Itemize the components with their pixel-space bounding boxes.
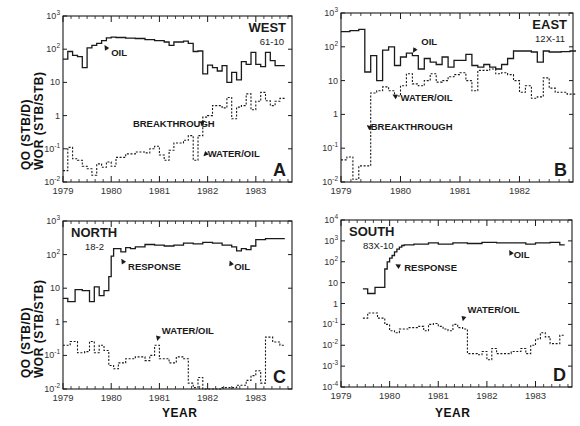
y-tick-label: 102 xyxy=(324,255,338,267)
annotation-label: OIL xyxy=(421,36,437,47)
x-tick-label: 1983 xyxy=(245,392,266,403)
y-tick-label: 10 xyxy=(328,76,338,86)
ylabel-wor: WOR (STB/STB) xyxy=(33,72,46,171)
panel-subtitle: 12X-11 xyxy=(535,33,565,44)
y-axis-label-bottom: QO (STB/D) WOR (STB/STB) xyxy=(20,280,46,379)
panel-subtitle: 83X-10 xyxy=(363,240,394,251)
annotation-label: WATER/OIL xyxy=(162,325,214,336)
y-tick-label: 1 xyxy=(333,299,338,309)
x-tick-label: 1981 xyxy=(149,185,170,196)
panel-title: NORTH xyxy=(71,225,117,240)
x-tick-label: 1982 xyxy=(509,185,530,196)
y-tick-label: 10-1 xyxy=(322,141,338,153)
y-tick-label: 102 xyxy=(46,42,60,54)
annotation-label: RESPONSE xyxy=(404,262,457,273)
y-tick-label: 10-3 xyxy=(322,359,338,371)
x-tick-label: 1979 xyxy=(330,390,351,401)
y-tick-label: 104 xyxy=(324,213,338,225)
x-tick-label: 1980 xyxy=(101,392,122,403)
y-tick-label: 103 xyxy=(324,234,338,246)
x-tick-label: 1979 xyxy=(52,392,73,403)
y-tick-label: 1 xyxy=(55,317,60,327)
arrow-head-icon xyxy=(461,316,466,321)
ylabel-wor: WOR (STB/STB) xyxy=(33,280,46,379)
x-tick-label: 1981 xyxy=(428,390,449,401)
y-tick-label: 102 xyxy=(46,248,60,260)
x-axis-label-left: YEAR xyxy=(162,406,197,420)
water-oil-ratio-series xyxy=(63,337,285,389)
annotation-label: BREAKTHROUGH xyxy=(371,121,453,132)
y-tick-label: 10 xyxy=(50,77,60,87)
panel-title: WEST xyxy=(248,20,286,35)
x-tick-label: 1983 xyxy=(245,185,266,196)
y-tick-label: 103 xyxy=(46,9,60,21)
x-tick-label: 1982 xyxy=(476,390,497,401)
y-tick-label: 10 xyxy=(328,278,338,288)
annotation-label: WATER/OIL xyxy=(208,148,260,159)
x-tick-label: 1983 xyxy=(525,390,546,401)
x-tick-label: 1980 xyxy=(101,185,122,196)
panel-subtitle: 61-10 xyxy=(260,36,284,47)
annotation-label: OIL xyxy=(234,261,250,272)
panel-B: 197919801981198210-210-1110102103OILWATE… xyxy=(322,6,576,196)
x-tick-label: 1979 xyxy=(330,185,351,196)
annotation-label: OIL xyxy=(111,47,127,58)
panel-A: 1979198019811982198310-210-1110102103OIL… xyxy=(44,9,292,196)
arrow-head-icon xyxy=(121,259,126,265)
panel-letter: A xyxy=(273,160,286,180)
water-oil-ratio-series xyxy=(63,92,285,175)
annotation-label: RESPONSE xyxy=(128,261,181,272)
y-tick-label: 103 xyxy=(324,6,338,18)
y-tick-label: 10 xyxy=(50,283,60,293)
panel-letter: C xyxy=(273,367,286,387)
x-tick-label: 1981 xyxy=(149,392,170,403)
arrow-head-icon xyxy=(392,95,398,100)
x-tick-label: 1979 xyxy=(52,185,73,196)
y-tick-label: 10-1 xyxy=(322,317,338,329)
annotation-label: WATER/OIL xyxy=(467,304,519,315)
x-tick-label: 1982 xyxy=(197,392,218,403)
x-tick-label: 1982 xyxy=(197,185,218,196)
y-tick-label: 10-1 xyxy=(44,142,60,154)
y-tick-label: 103 xyxy=(46,214,60,226)
y-tick-label: 10-1 xyxy=(44,348,60,360)
y-tick-label: 102 xyxy=(324,40,338,52)
x-tick-label: 1980 xyxy=(390,185,411,196)
y-axis-label-top: QO (STB/D) WOR (STB/STB) xyxy=(20,72,46,171)
arrow-head-icon xyxy=(104,45,109,51)
x-tick-label: 1981 xyxy=(449,185,470,196)
y-tick-label: 10-2 xyxy=(322,338,338,350)
oil-rate-series xyxy=(63,37,285,82)
figure-canvas: 1979198019811982198310-210-1110102103OIL… xyxy=(0,0,580,426)
annotation-label: OIL xyxy=(514,249,530,260)
panel-letter: B xyxy=(554,160,567,180)
panel-title: EAST xyxy=(532,17,567,32)
panel-title: SOUTH xyxy=(349,224,395,239)
panel-C: 1979198019811982198310-210-1110102103RES… xyxy=(44,214,292,403)
panel-letter: D xyxy=(553,365,566,385)
annotation-label: WATER/OIL xyxy=(400,92,452,103)
y-tick-label: 1 xyxy=(333,109,338,119)
panel-subtitle: 18-2 xyxy=(85,241,104,252)
y-tick-label: 1 xyxy=(55,111,60,121)
panel-D: 1979198019811982198310-410-310-210-11101… xyxy=(322,213,572,401)
x-axis-label-right: YEAR xyxy=(435,406,470,420)
x-tick-label: 1980 xyxy=(379,390,400,401)
arrow-head-icon xyxy=(156,336,161,341)
arrow-head-icon xyxy=(395,264,401,269)
